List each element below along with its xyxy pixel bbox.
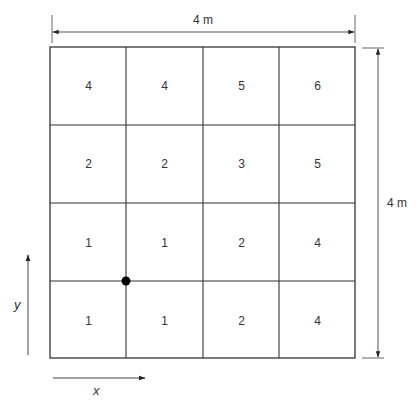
width-dimension-label: 4 m — [193, 13, 213, 27]
marker-dot — [122, 277, 131, 286]
grid-cell: 1 — [50, 236, 127, 250]
grid-cell: 4 — [126, 79, 203, 93]
grid-cell: 2 — [203, 314, 280, 328]
grid-cell: 4 — [279, 236, 356, 250]
grid-cell: 1 — [126, 236, 203, 250]
grid-cell: 1 — [126, 314, 203, 328]
grid-cell: 2 — [126, 157, 203, 171]
x-axis-label: x — [93, 383, 100, 398]
grid-cell: 6 — [279, 79, 356, 93]
grid-cell: 4 — [50, 79, 127, 93]
grid-cell: 2 — [203, 236, 280, 250]
grid-cell: 2 — [50, 157, 127, 171]
grid-cell: 5 — [203, 79, 280, 93]
grid-lines — [0, 0, 419, 408]
grid-cell: 3 — [203, 157, 280, 171]
y-axis-label: y — [14, 297, 21, 312]
grid-cell: 5 — [279, 157, 356, 171]
grid-cell: 4 — [279, 314, 356, 328]
height-dimension-label: 4 m — [387, 196, 407, 210]
grid-cell: 1 — [50, 314, 127, 328]
